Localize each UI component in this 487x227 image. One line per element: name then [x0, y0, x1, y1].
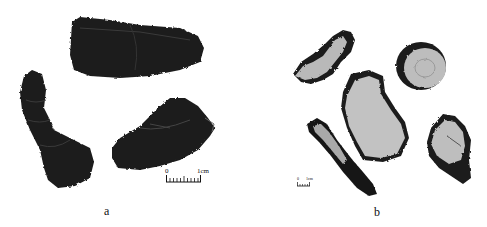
- slice-1: [293, 30, 355, 84]
- scale-start-b: 0: [297, 177, 299, 181]
- panel-a: 0 1cm a: [0, 0, 243, 227]
- specimen-photo-b: [243, 0, 487, 227]
- specimen-right: [112, 98, 215, 170]
- scale-bar-a: [166, 175, 201, 182]
- specimen-photo-a: [0, 0, 243, 227]
- panel-label-a: a: [104, 204, 109, 219]
- specimen-top: [70, 17, 204, 78]
- slice-5: [427, 114, 471, 184]
- panel-b: 0 1cm b: [243, 0, 487, 227]
- slice-2: [396, 42, 446, 90]
- scale-start-a: 0: [165, 168, 169, 175]
- scale-end-a: 1cm: [197, 168, 209, 175]
- specimen-left: [20, 70, 94, 188]
- slice-3: [341, 70, 409, 162]
- scale-end-b: 1cm: [306, 177, 313, 181]
- panel-label-b: b: [374, 205, 380, 220]
- scale-bar-b: [297, 182, 310, 186]
